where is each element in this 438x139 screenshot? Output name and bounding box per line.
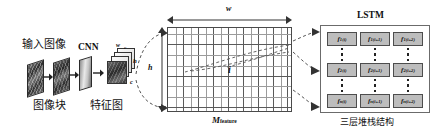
lstm-cell-2-2[interactable]: fn(i+2) [393,94,423,108]
lstm-stack-dots-col0-row1 [341,79,343,92]
arrow-input-to-patch [44,72,53,82]
image-patch-label: 图像块 [33,100,66,111]
input-image-label: 输入图像 [22,39,66,50]
lstm-cell-1-2[interactable]: f2(i+2) [393,63,423,77]
lstm-cell-2-1[interactable]: fn(i+1) [360,94,390,108]
lstm-cell-sup: (i) [342,37,346,42]
feature-map-label: 特征图 [90,100,123,111]
cube-c-label-top: c [124,45,126,50]
lstm-stack-dots-col2-row0 [407,48,409,61]
lstm-stack-dots-col1-row0 [374,48,376,61]
dashed-connectors-matrix-to-lstm [292,24,322,114]
matrix-name-subscript: feature [220,118,237,124]
matrix-name-label: Mfeature [212,116,237,125]
lstm-title: LSTM [357,11,384,21]
lstm-cell-1-0[interactable]: f2(i) [327,63,357,77]
lstm-cell-1-1[interactable]: f2(i+1) [360,63,390,77]
arrow-patch-to-cnn [70,70,79,80]
matrix-internal-dashed-paths [167,27,292,112]
matrix-height-dimension-arrow [156,27,167,112]
lstm-cell-sup: (i+2) [406,37,415,42]
lstm-panel: f1(i) f1(i+1) f1(i+2) f2(i) f2(i+1) f2(i… [320,25,430,113]
lstm-stack-dots-col0-row0 [341,48,343,61]
lstm-cell-0-0[interactable]: f1(i) [327,32,357,46]
lstm-cell-sup: (i+2) [406,99,415,104]
figure-canvas: 输入图像 CNN w h c c 图像块 特征图 w [0,0,438,139]
lstm-caption: 三层堆栈结构 [340,118,394,127]
lstm-cell-sup: (i) [342,68,346,73]
cnn-slab [79,58,92,89]
matrix-width-dimension-arrow [167,14,292,25]
input-image-slab-1 [27,62,44,95]
image-patch-slab [53,60,70,93]
lstm-cell-2-0[interactable]: fn(i) [327,94,357,108]
lstm-cell-0-2[interactable]: f1(i+2) [393,32,423,46]
cnn-label: CNN [78,43,99,53]
lstm-cell-0-1[interactable]: f1(i+1) [360,32,390,46]
lstm-cell-sup: (i) [342,99,346,104]
featuremap-card-front [107,61,127,84]
lstm-stack-dots-col1-row1 [374,79,376,92]
lstm-stack-dots-col2-row1 [407,79,409,92]
matrix-height-label: h [148,64,152,72]
lstm-cell-sup: (i+1) [373,68,382,73]
arrow-cnn-to-featuremap [93,68,104,78]
lstm-cell-sup: (i+1) [373,99,382,104]
lstm-cell-sup: (i+1) [373,37,382,42]
lstm-cell-sup: (i+2) [406,68,415,73]
matrix-width-label: w [226,5,231,13]
cube-w-label: w [116,42,120,48]
matrix-name-base: M [212,115,220,125]
